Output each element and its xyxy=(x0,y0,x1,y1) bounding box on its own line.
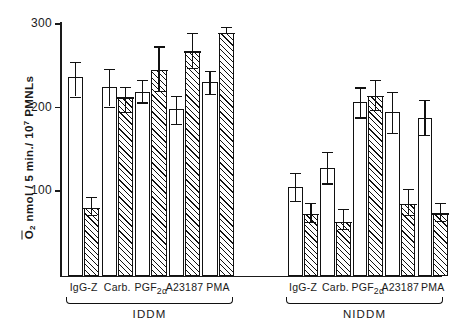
bar-niddm-PGF2-hatched xyxy=(368,96,383,276)
y-axis-tick-label: 100 xyxy=(22,183,52,197)
error-bar-cap-upper xyxy=(338,209,349,210)
y-axis-line xyxy=(60,22,62,277)
bar-iddm-IgGZ-open xyxy=(68,77,83,276)
error-bar-cap-upper xyxy=(370,80,381,81)
error-bar-cap-lower xyxy=(355,117,366,118)
error-bar-line xyxy=(327,152,328,184)
bar-niddm-IgGZ-hatched xyxy=(304,214,319,276)
error-bar-cap-lower xyxy=(419,135,430,136)
bar-iddm-IgGZ-hatched xyxy=(84,208,99,277)
error-bar-cap-lower xyxy=(387,133,398,134)
bar-iddm-PGF2-hatched xyxy=(151,70,166,276)
error-bar-cap-lower xyxy=(205,94,216,95)
error-bar-cap-lower xyxy=(70,97,81,98)
error-bar-line xyxy=(440,203,441,221)
error-bar-cap-lower xyxy=(154,91,165,92)
error-bar-line xyxy=(109,69,110,107)
y-axis-tick-label: 300 xyxy=(22,16,52,30)
y-axis-label: O2 nmol / 5 min./ 107 PMNLs xyxy=(22,33,37,283)
bar-mean-marker xyxy=(83,208,100,209)
error-bar-line xyxy=(392,92,393,134)
x-axis-category-label-PMA: PMA xyxy=(191,281,244,293)
error-bar-cap-upper xyxy=(290,173,301,174)
error-bar-cap-lower xyxy=(120,112,131,113)
error-bar-cap-lower xyxy=(435,221,446,222)
error-bar-cap-upper xyxy=(322,152,333,153)
y-axis-tick-label: 200 xyxy=(22,100,52,114)
group-label-niddm: NIDDM xyxy=(286,308,443,320)
error-bar-cap-upper xyxy=(221,27,232,28)
error-bar-line xyxy=(142,80,143,103)
bar-niddm-PGF2-open xyxy=(353,102,368,276)
error-bar-cap-upper xyxy=(120,87,131,88)
error-bar-line xyxy=(75,62,76,96)
bar-iddm-PMA-open xyxy=(202,82,217,276)
error-bar-cap-lower xyxy=(322,183,333,184)
error-bar-line xyxy=(295,173,296,201)
bar-iddm-Carb-hatched xyxy=(118,97,133,276)
bar-mean-marker xyxy=(367,96,384,97)
bar-mean-marker xyxy=(432,213,449,214)
error-bar-line xyxy=(408,189,409,215)
bar-mean-marker xyxy=(400,204,417,205)
bar-iddm-A23187-open xyxy=(169,109,184,276)
bar-niddm-A23187-open xyxy=(385,112,400,277)
error-bar-cap-lower xyxy=(305,222,316,223)
error-bar-cap-upper xyxy=(154,46,165,47)
error-bar-line xyxy=(209,71,210,94)
error-bar-line xyxy=(125,87,126,112)
error-bar-cap-upper xyxy=(387,92,398,93)
error-bar-cap-upper xyxy=(419,100,430,101)
error-bar-cap-lower xyxy=(171,124,182,125)
error-bar-cap-lower xyxy=(290,201,301,202)
bar-mean-marker xyxy=(151,70,168,71)
error-bar-cap-lower xyxy=(86,215,97,216)
error-bar-cap-lower xyxy=(338,229,349,230)
error-bar-cap-lower xyxy=(187,68,198,69)
bar-iddm-PMA-hatched xyxy=(219,33,234,276)
error-bar-cap-lower xyxy=(137,102,148,103)
group-bracket-niddm xyxy=(286,297,443,304)
bar-mean-marker xyxy=(302,214,319,215)
bar-mean-marker xyxy=(218,33,235,34)
error-bar-cap-lower xyxy=(370,110,381,111)
y-axis-tick xyxy=(55,107,61,109)
error-bar-cap-lower xyxy=(403,215,414,216)
error-bar-cap-upper xyxy=(305,203,316,204)
error-bar-cap-upper xyxy=(171,96,182,97)
error-bar-line xyxy=(360,87,361,117)
bar-mean-marker xyxy=(335,222,352,223)
y-axis-tick xyxy=(55,23,61,25)
error-bar-cap-upper xyxy=(355,87,366,88)
bar-mean-marker xyxy=(117,97,134,98)
error-bar-line xyxy=(158,46,159,90)
error-bar-line xyxy=(343,209,344,229)
bar-iddm-A23187-hatched xyxy=(185,51,200,276)
bar-iddm-Carb-open xyxy=(102,87,117,277)
figure-bar-chart: O2 nmol / 5 min./ 107 PMNLs 100200300 Ig… xyxy=(0,0,457,330)
group-bracket-iddm xyxy=(66,297,233,304)
bar-niddm-PMA-open xyxy=(418,118,433,276)
error-bar-cap-upper xyxy=(70,62,81,63)
bar-iddm-PGF2-open xyxy=(135,92,150,276)
error-bar-cap-upper xyxy=(104,69,115,70)
error-bar-cap-upper xyxy=(137,80,148,81)
error-bar-line xyxy=(310,203,311,222)
error-bar-cap-upper xyxy=(435,203,446,204)
error-bar-cap-upper xyxy=(403,189,414,190)
bar-mean-marker xyxy=(184,51,201,52)
error-bar-cap-lower xyxy=(104,107,115,108)
error-bar-line xyxy=(176,96,177,124)
bar-niddm-PMA-hatched xyxy=(433,213,448,276)
y-axis-tick xyxy=(55,190,61,192)
error-bar-cap-upper xyxy=(187,33,198,34)
error-bar-line xyxy=(91,197,92,215)
x-axis-category-label-PMA: PMA xyxy=(407,281,457,293)
group-label-iddm: IDDM xyxy=(66,308,233,320)
error-bar-line xyxy=(424,100,425,135)
error-bar-cap-upper xyxy=(205,71,216,72)
error-bar-cap-upper xyxy=(86,197,97,198)
